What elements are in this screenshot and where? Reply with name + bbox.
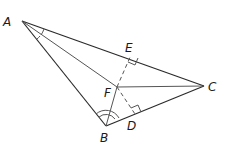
label-b: B bbox=[100, 131, 108, 145]
segment-fe bbox=[117, 55, 131, 87]
label-c: C bbox=[208, 80, 217, 94]
angle-mark-a-lower bbox=[37, 36, 40, 39]
label-e: E bbox=[125, 41, 133, 55]
angle-mark-b-inner bbox=[99, 114, 115, 119]
segment-fd bbox=[117, 87, 135, 114]
label-a: A bbox=[2, 15, 11, 29]
side-ac bbox=[22, 21, 204, 86]
segment-af bbox=[22, 21, 117, 87]
geometry-diagram: A B C D E F bbox=[0, 0, 226, 151]
segment-fc bbox=[117, 86, 204, 87]
label-f: F bbox=[104, 86, 112, 100]
side-ab bbox=[22, 21, 106, 126]
angle-mark-a-upper bbox=[41, 29, 44, 35]
side-bc bbox=[106, 86, 204, 126]
label-d: D bbox=[127, 119, 136, 133]
